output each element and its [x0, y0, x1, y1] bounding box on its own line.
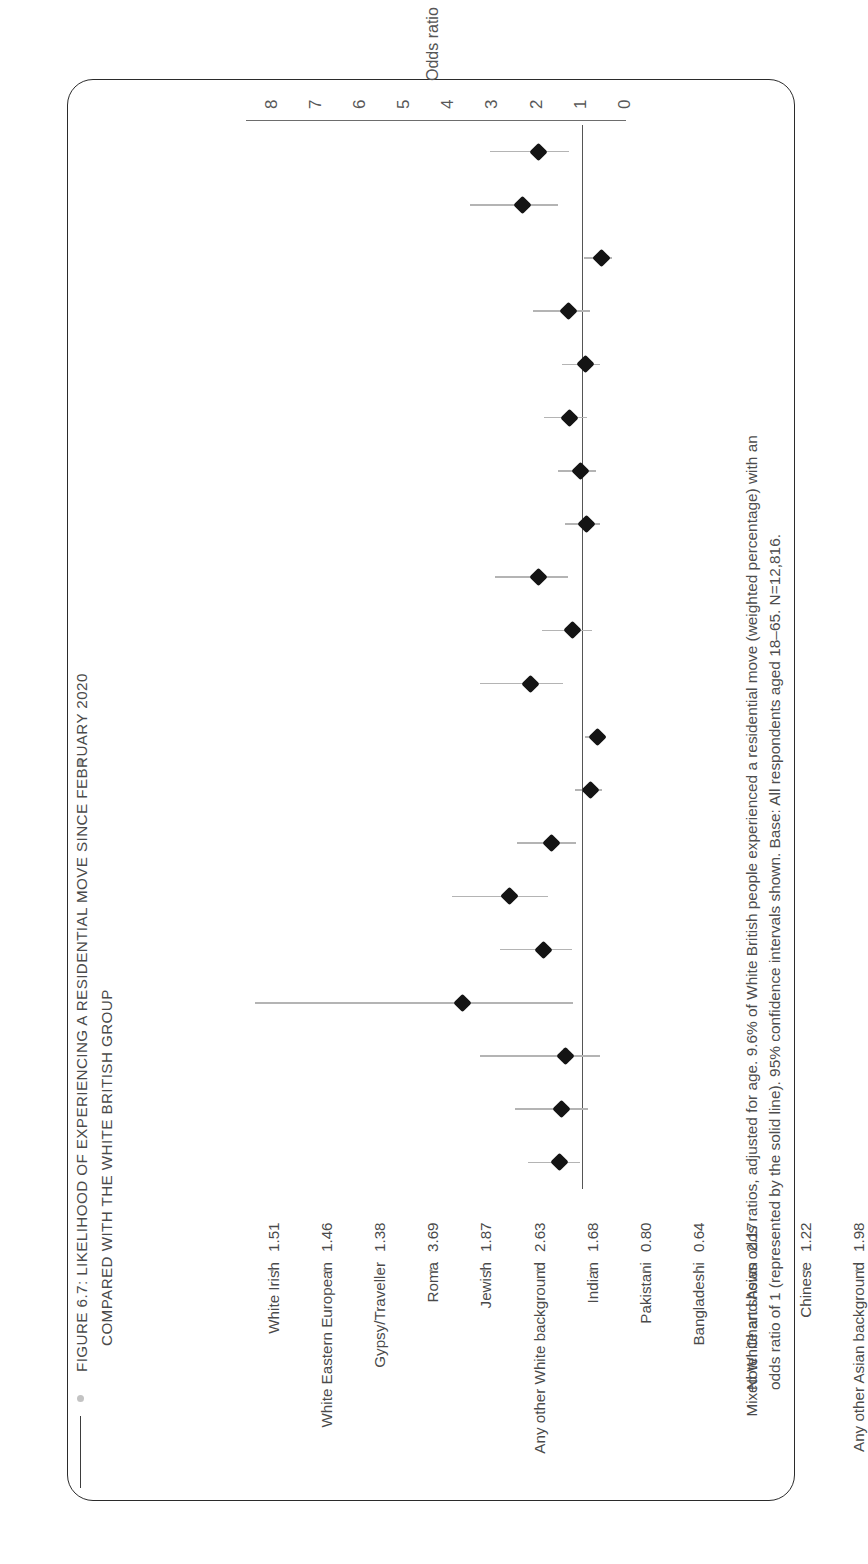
- category-label: White Irish: [263, 1262, 282, 1334]
- category-value: 3.69: [423, 1206, 442, 1252]
- note-line-2: odds ratio of 1 (represented by the soli…: [763, 100, 786, 1390]
- data-point-marker: [534, 940, 552, 958]
- data-point-marker: [559, 302, 577, 320]
- data-point-marker: [556, 1047, 574, 1065]
- x-axis-ticks: 012345678: [246, 77, 626, 117]
- data-point-marker: [589, 728, 607, 746]
- category-value: 1.51: [263, 1206, 282, 1252]
- data-point-marker: [577, 355, 595, 373]
- data-point-marker: [563, 621, 581, 639]
- x-axis-tick-label: 8: [262, 100, 282, 109]
- row-dot-icon: [855, 1269, 858, 1272]
- category-label: Bangladeshi: [689, 1262, 708, 1346]
- note-line-1: Note: Chart shows odds ratios, adjusted …: [740, 100, 763, 1390]
- category-row: Jewish1.87: [476, 1200, 495, 1500]
- row-dot-icon: [802, 1269, 805, 1272]
- title-line-2: COMPARED WITH THE WHITE BRITISH GROUP: [94, 262, 119, 1372]
- x-axis-spine: [246, 120, 626, 121]
- category-value: 1.22: [795, 1206, 814, 1252]
- data-point-marker: [560, 408, 578, 426]
- confidence-interval: [480, 1055, 600, 1057]
- data-point-marker: [581, 781, 599, 799]
- row-dot-icon: [377, 1269, 380, 1272]
- category-label: Any other Asian background: [848, 1262, 867, 1452]
- x-axis-title: Odds ratio: [424, 0, 442, 81]
- category-value: 1.87: [476, 1206, 495, 1252]
- x-axis-tick-label: 2: [527, 100, 547, 109]
- category-value: 2.63: [529, 1206, 548, 1252]
- confidence-interval: [255, 1002, 573, 1004]
- data-point-marker: [513, 196, 531, 214]
- row-dot-icon: [536, 1269, 539, 1272]
- row-dot-icon: [483, 1269, 486, 1272]
- row-dot-icon: [323, 1269, 326, 1272]
- category-row: Chinese1.22: [795, 1200, 814, 1500]
- figure-page: FIGURE 6.7: LIKELIHOOD OF EXPERIENCING A…: [0, 0, 868, 1564]
- data-point-marker: [550, 1153, 568, 1171]
- category-row: Pakistani0.80: [636, 1200, 655, 1500]
- forest-plot: [246, 125, 626, 1189]
- category-row: Gypsy/Traveller1.38: [370, 1200, 389, 1500]
- category-row: Roma3.69: [423, 1200, 442, 1500]
- category-label: Roma: [423, 1262, 442, 1303]
- category-row: Bangladeshi0.64: [689, 1200, 708, 1500]
- x-axis-tick-label: 3: [482, 100, 502, 109]
- category-row: White Eastern European1.46: [316, 1200, 335, 1500]
- category-value: 0.64: [689, 1206, 708, 1252]
- category-row: Any other Asian background1.98: [848, 1200, 867, 1500]
- data-point-marker: [521, 674, 539, 692]
- title-rule: [80, 1416, 81, 1488]
- category-value: 0.80: [636, 1206, 655, 1252]
- category-value: 1.98: [848, 1206, 867, 1252]
- data-point-marker: [454, 994, 472, 1012]
- page-title: FIGURE 6.7: LIKELIHOOD OF EXPERIENCING A…: [69, 262, 119, 1372]
- category-label: Indian: [582, 1262, 601, 1303]
- figure-card: FIGURE 6.7: LIKELIHOOD OF EXPERIENCING A…: [67, 79, 795, 1501]
- category-value: 1.38: [370, 1206, 389, 1252]
- row-dot-icon: [589, 1269, 592, 1272]
- data-point-marker: [592, 249, 610, 267]
- data-point-marker: [572, 462, 590, 480]
- figure-note: Note: Chart shows odds ratios, adjusted …: [740, 100, 786, 1390]
- row-dot-icon: [696, 1269, 699, 1272]
- data-point-marker: [501, 887, 519, 905]
- category-label: Gypsy/Traveller: [370, 1262, 389, 1368]
- x-axis-tick-label: 4: [438, 100, 458, 109]
- data-point-marker: [543, 834, 561, 852]
- x-axis-tick-label: 7: [306, 100, 326, 109]
- confidence-interval: [515, 1108, 589, 1110]
- x-axis-tick-label: 6: [350, 100, 370, 109]
- data-point-marker: [552, 1100, 570, 1118]
- category-axis: White Irish1.51White Eastern European1.4…: [246, 1189, 626, 1500]
- title-line-1: FIGURE 6.7: LIKELIHOOD OF EXPERIENCING A…: [69, 262, 94, 1372]
- title-bullet-left: [77, 1395, 84, 1402]
- reference-line: [582, 125, 583, 1189]
- x-axis-tick-label: 1: [571, 100, 591, 109]
- category-label: White Eastern European: [316, 1262, 335, 1427]
- category-row: Any other White background2.63: [529, 1200, 548, 1500]
- data-point-marker: [577, 515, 595, 533]
- category-value: 1.68: [582, 1206, 601, 1252]
- category-row: White Irish1.51: [263, 1200, 282, 1500]
- category-value: 1.46: [316, 1206, 335, 1252]
- category-label: Any other White background: [529, 1262, 548, 1454]
- category-row: Indian1.68: [582, 1200, 601, 1500]
- row-dot-icon: [643, 1269, 646, 1272]
- data-point-marker: [529, 568, 547, 586]
- x-axis-tick-label: 5: [394, 100, 414, 109]
- x-axis-tick-label: 0: [615, 100, 635, 109]
- row-dot-icon: [270, 1269, 273, 1272]
- row-dot-icon: [430, 1269, 433, 1272]
- data-point-marker: [529, 142, 547, 160]
